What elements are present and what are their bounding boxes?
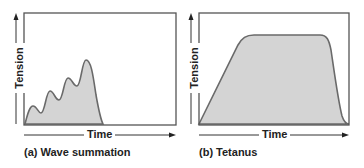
wave-summation-curve <box>25 60 103 124</box>
tension-arrowhead-icon <box>14 13 19 20</box>
panel-caption: (a) Wave summation <box>24 146 131 158</box>
tension-axis-label: Tension <box>188 43 200 93</box>
tetanus-curve <box>199 35 349 124</box>
time-arrowhead-icon <box>169 133 176 138</box>
tension-arrowhead-icon <box>189 13 194 20</box>
tension-axis-label: Tension <box>13 43 25 93</box>
panel-caption: (b) Tetanus <box>199 146 257 158</box>
panel-wave-summation: Tension Time (a) Wave summation <box>0 0 182 168</box>
panel-tetanus: Tension Time (b) Tetanus <box>182 0 364 168</box>
time-axis-label: Time <box>259 128 290 140</box>
time-axis-label: Time <box>84 128 115 140</box>
time-arrowhead-icon <box>342 133 349 138</box>
wave-summation-plot <box>0 0 182 168</box>
tetanus-plot <box>182 0 364 168</box>
